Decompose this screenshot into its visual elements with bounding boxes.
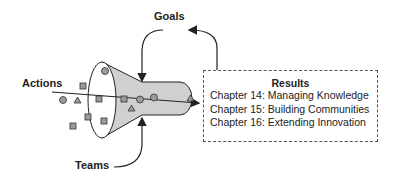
square-shape: [70, 123, 76, 129]
results-item: Chapter 16: Extending Innovation: [204, 116, 377, 130]
results-title: Results: [204, 77, 377, 89]
goals-label: Goals: [154, 10, 185, 22]
square-shape: [80, 83, 86, 89]
square-shape: [85, 114, 91, 120]
square-shape: [96, 96, 102, 102]
results-to-goals-arrow: [190, 30, 217, 70]
results-item: Chapter 15: Building Communities: [204, 103, 377, 117]
circle-shape: [151, 94, 158, 101]
square-shape: [101, 118, 107, 124]
teams-label: Teams: [75, 159, 109, 171]
square-shape: [121, 96, 127, 102]
results-item: Chapter 14: Managing Knowledge: [204, 89, 377, 103]
goals-to-funnel-arrow: [142, 30, 163, 80]
circle-shape: [102, 68, 109, 75]
circle-shape: [137, 96, 144, 103]
circle-shape: [60, 97, 67, 104]
actions-label: Actions: [22, 77, 62, 89]
triangle-shape: [74, 97, 81, 103]
results-box: Results Chapter 14: Managing Knowledge C…: [203, 70, 378, 142]
